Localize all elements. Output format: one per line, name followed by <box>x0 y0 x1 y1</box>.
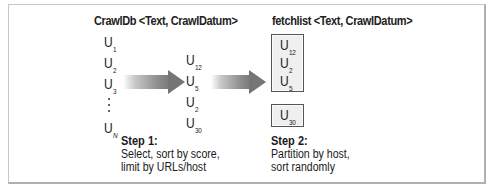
fetchlist-title: fetchlist <Text, CrawlDatum> <box>272 14 412 28</box>
ellipsis-icon <box>108 98 110 116</box>
step2-caption: Step 2: Partition by host, sort randomly <box>271 135 350 174</box>
arrow-right-icon <box>211 70 266 94</box>
crawldb-entry: UN <box>104 120 117 144</box>
step2-line: sort randomly <box>271 161 350 174</box>
step1-caption: Step 1: Select, sort by score, limit by … <box>121 135 220 174</box>
partition-entry: U30 <box>280 107 295 131</box>
partition-entry: U5 <box>280 73 292 97</box>
step1-line: limit by URLs/host <box>121 161 220 174</box>
crawldb-title: CrawlDb <Text, CrawlDatum> <box>94 14 237 28</box>
arrow-right-icon <box>123 70 185 94</box>
crawldb-entry: U3 <box>104 76 116 100</box>
diagram-frame <box>8 4 486 184</box>
